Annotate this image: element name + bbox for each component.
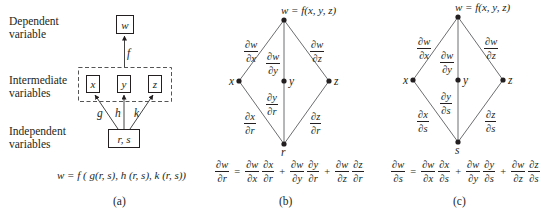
numerator: ∂w — [244, 39, 258, 52]
numerator: ∂y — [307, 159, 319, 172]
node-w-box: w — [116, 15, 134, 34]
numerator: ∂w — [440, 50, 454, 63]
denominator: ∂x — [245, 52, 257, 64]
term-fraction: ∂z∂r — [352, 159, 363, 184]
numerator: ∂w — [484, 36, 498, 49]
function-label-c: w = f(x, y, z) — [455, 1, 510, 14]
numerator: ∂y — [266, 92, 278, 105]
edge-label-dy-dr: ∂y∂r — [266, 92, 278, 117]
numerator: ∂x — [262, 159, 274, 172]
numerator: ∂w — [466, 159, 480, 172]
edge-label-dw-dx-c: ∂w∂x — [417, 36, 431, 61]
plus-sign: + — [277, 166, 287, 177]
numerator: ∂w — [245, 159, 259, 172]
denominator: ∂z — [513, 172, 524, 184]
numerator: ∂z — [352, 159, 363, 172]
numerator: ∂z — [528, 159, 539, 172]
equals-sign: = — [408, 166, 418, 177]
denominator: ∂s — [485, 122, 496, 134]
label-dependent-variable: Dependent variable — [9, 15, 59, 41]
denominator: ∂r — [310, 124, 321, 136]
edge-label-dw-dx-b: ∂w∂x — [244, 39, 258, 64]
node-label-r: r — [281, 146, 285, 159]
label-line: Dependent — [9, 15, 59, 28]
numerator: ∂z — [310, 111, 321, 124]
denominator: ∂z — [311, 52, 322, 64]
denominator: ∂s — [417, 122, 428, 134]
edge-label-g: g — [97, 107, 103, 120]
term-fraction: ∂w∂y — [466, 159, 480, 184]
denominator: ∂y — [467, 172, 479, 184]
edge-label-dx-ds: ∂x∂s — [417, 109, 429, 134]
term-fraction: ∂w∂x — [421, 159, 435, 184]
equals-sign: = — [232, 166, 242, 177]
edge-label-dz-dr: ∂z∂r — [310, 111, 321, 136]
edge-label-dw-dz-c: ∂w∂z — [484, 36, 498, 61]
composite-formula: w = f ( g(r, s), h (r, s), k (r, s)) — [57, 169, 186, 182]
edge-label-f: f — [127, 47, 130, 60]
denominator: ∂r — [352, 172, 363, 184]
lhs-fraction: ∂w∂s — [391, 159, 405, 184]
chain-rule-equation-r: ∂w∂r = ∂w∂x ∂x∂r + ∂w∂y ∂y∂r + ∂w∂z ∂z∂r — [215, 159, 364, 184]
plus-sign: + — [322, 166, 332, 177]
caption-a: (a) — [113, 195, 126, 207]
label-line: variable — [9, 28, 59, 41]
function-label-b: w = f(x, y, z) — [281, 4, 336, 17]
numerator: ∂w — [417, 36, 431, 49]
numerator: ∂y — [440, 91, 452, 104]
node-y-box: y — [117, 75, 131, 93]
denominator: ∂y — [267, 64, 279, 76]
label-independent-variables: Independent variables — [9, 125, 66, 151]
denominator: ∂s — [528, 172, 539, 184]
edge-label-dz-ds: ∂z∂s — [485, 109, 496, 134]
term-fraction: ∂z∂s — [528, 159, 539, 184]
edge-label-dx-dr: ∂x∂r — [244, 111, 256, 136]
denominator: ∂x — [422, 172, 434, 184]
edge-label-k: k — [134, 107, 139, 120]
lhs-fraction: ∂w∂r — [215, 159, 229, 184]
node-z-box: z — [148, 75, 162, 93]
numerator: ∂w — [310, 39, 324, 52]
term-fraction: ∂x∂s — [438, 159, 450, 184]
node-label-x-c: x — [403, 74, 408, 87]
node-label-y-b: y — [289, 75, 294, 88]
edge-label-h: h — [115, 107, 121, 120]
label-line: variables — [9, 87, 67, 100]
numerator: ∂w — [335, 159, 349, 172]
term-fraction: ∂w∂z — [335, 159, 349, 184]
numerator: ∂w — [511, 159, 525, 172]
node-label-z-b: z — [334, 75, 338, 88]
caption-c: (c) — [453, 195, 466, 207]
denominator: ∂s — [440, 104, 451, 116]
denominator: ∂x — [418, 49, 430, 61]
numerator: ∂x — [244, 111, 256, 124]
edge-label-dw-dz-b: ∂w∂z — [310, 39, 324, 64]
node-label-z-c: z — [508, 74, 512, 87]
label-intermediate-variables: Intermediate variables — [9, 74, 67, 100]
node-rs-box: r, s — [108, 129, 140, 148]
denominator: ∂y — [291, 172, 303, 184]
node-label-s: s — [455, 144, 459, 157]
denominator: ∂z — [337, 172, 348, 184]
numerator: ∂w — [391, 159, 405, 172]
node-x-box: x — [86, 75, 100, 93]
caption-b: (b) — [279, 195, 292, 207]
term-fraction: ∂w∂y — [290, 159, 304, 184]
denominator: ∂s — [392, 172, 403, 184]
denominator: ∂s — [439, 172, 450, 184]
label-line: Independent — [9, 125, 66, 138]
numerator: ∂w — [421, 159, 435, 172]
node-label-x-b: x — [229, 75, 234, 88]
term-fraction: ∂w∂x — [245, 159, 259, 184]
denominator: ∂r — [266, 105, 277, 117]
denominator: ∂y — [441, 63, 453, 75]
numerator: ∂z — [485, 109, 496, 122]
term-fraction: ∂y∂s — [483, 159, 495, 184]
plus-sign: + — [498, 166, 508, 177]
denominator: ∂r — [216, 172, 227, 184]
term-fraction: ∂y∂r — [307, 159, 319, 184]
label-line: variables — [9, 138, 66, 151]
denominator: ∂r — [263, 172, 274, 184]
numerator: ∂w — [290, 159, 304, 172]
label-line: Intermediate — [9, 74, 67, 87]
